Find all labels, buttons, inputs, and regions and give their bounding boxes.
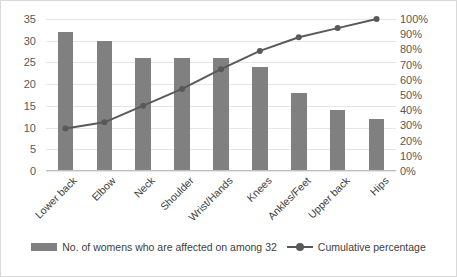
right-axis-tick: 90% [400, 29, 422, 40]
left-axis-tick: 15 [24, 100, 36, 111]
category-axis-labels: Lower backElbowNeckShoulderWrist/HandsKn… [46, 173, 396, 231]
line-marker [218, 66, 224, 72]
right-axis-tick: 60% [400, 74, 422, 85]
legend-label-bar: No. of womens who are affected on among … [62, 242, 277, 253]
left-value-axis: 05101520253035 [1, 19, 41, 171]
chart-legend: No. of womens who are affected on among … [1, 237, 456, 257]
legend-line-swatch-icon [287, 242, 313, 252]
category-label: Knees [245, 175, 273, 203]
legend-entry-line: Cumulative percentage [287, 242, 426, 253]
legend-bar-swatch-icon [31, 243, 57, 251]
gridline [46, 171, 396, 172]
line-marker [101, 119, 107, 125]
right-axis-tick: 50% [400, 90, 422, 101]
category-label: Lower back [33, 175, 78, 220]
left-axis-tick: 0 [30, 166, 36, 177]
right-axis-tick: 80% [400, 44, 422, 55]
left-axis-tick: 35 [24, 14, 36, 25]
line-marker [257, 48, 263, 54]
right-axis-tick: 30% [400, 120, 422, 131]
left-axis-tick: 20 [24, 79, 36, 90]
cumulative-line [65, 19, 376, 128]
left-axis-tick: 25 [24, 57, 36, 68]
right-axis-tick: 70% [400, 59, 422, 70]
category-axis-line [46, 170, 396, 171]
right-axis-tick: 40% [400, 105, 422, 116]
line-marker [179, 86, 185, 92]
category-label: Shoulder [158, 175, 195, 212]
line-marker [335, 25, 341, 31]
right-axis-tick: 0% [400, 166, 416, 177]
right-axis-tick: 20% [400, 135, 422, 146]
cumulative-line-series [46, 19, 396, 171]
left-axis-tick: 10 [24, 122, 36, 133]
category-label: Elbow [90, 175, 118, 203]
left-axis-tick: 5 [30, 144, 36, 155]
line-marker [62, 125, 68, 131]
category-label: Neck [132, 175, 156, 199]
plot-area [46, 19, 396, 171]
line-marker [140, 103, 146, 109]
line-marker [374, 16, 380, 22]
legend-label-line: Cumulative percentage [318, 242, 426, 253]
line-marker [296, 34, 302, 40]
category-label: Hips [368, 175, 390, 197]
right-percentage-axis: 0%10%20%30%40%50%60%70%80%90%100% [400, 19, 455, 171]
pareto-chart: 05101520253035 0%10%20%30%40%50%60%70%80… [0, 0, 457, 277]
left-axis-tick: 30 [24, 35, 36, 46]
right-axis-tick: 100% [400, 14, 428, 25]
legend-entry-bar: No. of womens who are affected on among … [31, 242, 277, 253]
right-axis-tick: 10% [400, 150, 422, 161]
